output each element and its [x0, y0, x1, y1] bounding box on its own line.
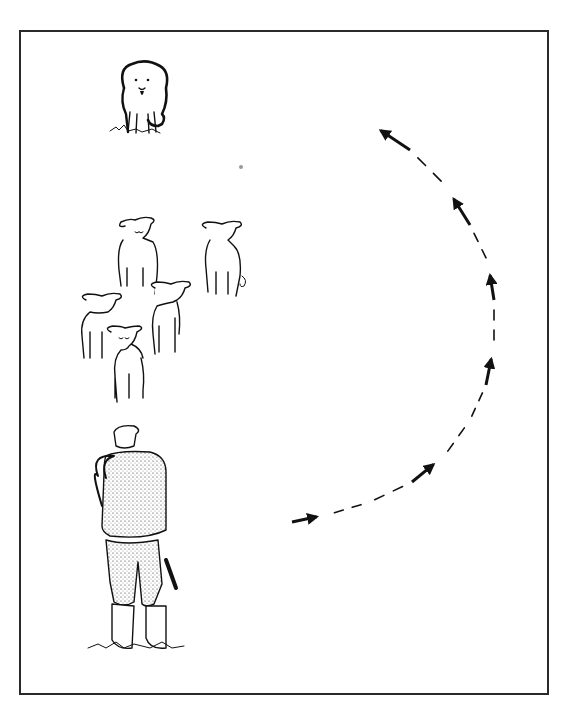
path-dash: [474, 233, 478, 241]
path-dash: [334, 510, 343, 513]
sheep: [119, 217, 158, 294]
sheepdog: [110, 61, 167, 133]
direction-arrow: [486, 359, 491, 385]
sheep: [107, 326, 143, 402]
path-dash: [418, 158, 426, 166]
herding-diagram: [0, 0, 571, 719]
shepherd: [88, 426, 184, 649]
direction-arrow: [490, 275, 494, 300]
path-dash: [393, 486, 402, 490]
sheep: [151, 281, 190, 354]
path-dash: [433, 173, 441, 181]
direction-arrow: [381, 131, 410, 151]
direction-arrow: [454, 199, 470, 225]
direction-arrow: [412, 464, 433, 482]
path-dash: [459, 428, 465, 436]
outrun-path: [292, 131, 494, 523]
path-dash: [352, 505, 361, 508]
direction-arrow: [292, 517, 317, 522]
path-dash: [482, 250, 486, 258]
stray-mark: [239, 165, 243, 169]
path-dash: [448, 443, 454, 451]
path-dash: [375, 495, 384, 499]
flock: [82, 217, 246, 402]
path-dash: [472, 408, 476, 416]
path-dash: [479, 393, 483, 401]
sheep: [202, 221, 245, 296]
